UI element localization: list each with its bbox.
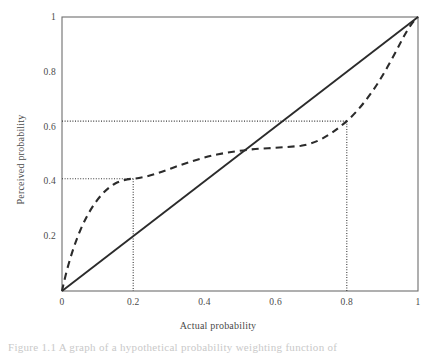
x-axis-title: Actual probability bbox=[0, 320, 436, 331]
xtick-label-0.4: 0.4 bbox=[198, 297, 210, 307]
figure-caption: Figure 1.1 A graph of a hypothetical pro… bbox=[8, 341, 428, 353]
ytick-label-1: 1 bbox=[38, 12, 56, 22]
ytick-label-0.6: 0.6 bbox=[33, 122, 56, 132]
xtick-label-0: 0 bbox=[60, 297, 65, 307]
xtick-label-0.8: 0.8 bbox=[341, 297, 353, 307]
ytick-label-0.2: 0.2 bbox=[33, 231, 56, 241]
y-axis-title: Perceived probability bbox=[15, 90, 26, 230]
xtick-label-0.6: 0.6 bbox=[269, 297, 281, 307]
identity-line bbox=[62, 17, 418, 291]
ytick-label-0.4: 0.4 bbox=[33, 176, 56, 186]
xtick-label-0.2: 0.2 bbox=[127, 297, 139, 307]
ytick-label-0.8: 0.8 bbox=[33, 67, 56, 77]
xtick-label-1: 1 bbox=[416, 297, 421, 307]
